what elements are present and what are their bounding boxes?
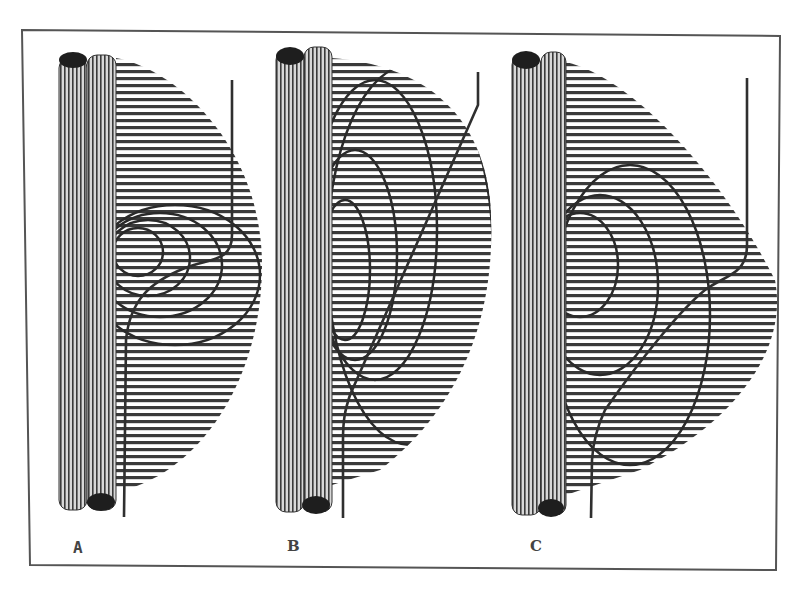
rod-cap-a-bottom xyxy=(87,493,115,511)
rod-cap-c-top xyxy=(512,51,540,69)
panel-a xyxy=(59,52,262,517)
rod-cap-c-bottom xyxy=(538,499,564,517)
rod-a-right xyxy=(87,55,116,510)
rod-b-left xyxy=(276,50,304,512)
rod-cap-a-top xyxy=(59,52,87,68)
rod-b-right xyxy=(304,47,332,512)
panel-label-c: C xyxy=(530,537,542,555)
field-hatch-a xyxy=(116,58,262,490)
field-hatch-b xyxy=(332,58,491,485)
diagram-figure xyxy=(0,0,808,599)
rod-cap-b-top xyxy=(276,47,304,65)
panel-c xyxy=(512,51,777,518)
rod-a-left xyxy=(59,58,87,510)
panel-b xyxy=(276,47,493,518)
panel-label-b: B xyxy=(287,537,300,555)
rod-cap-b-bottom xyxy=(302,496,330,514)
panel-label-a: A xyxy=(73,538,83,557)
rod-c-left xyxy=(512,55,541,515)
rod-c-right xyxy=(541,52,566,515)
